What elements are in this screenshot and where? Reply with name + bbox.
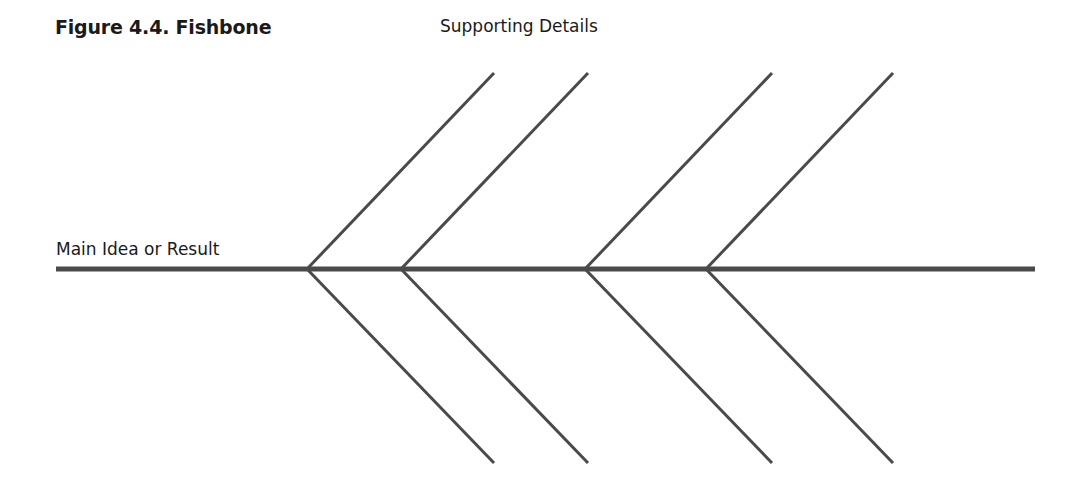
rib-lower-1 [307,269,494,463]
rib-lower-4 [706,269,893,463]
rib-upper-1 [307,73,494,269]
rib-upper-4 [706,73,893,269]
rib-upper-2 [401,73,588,269]
fishbone-diagram [0,0,1084,491]
rib-lower-3 [585,269,772,463]
rib-upper-3 [585,73,772,269]
rib-lower-2 [401,269,588,463]
